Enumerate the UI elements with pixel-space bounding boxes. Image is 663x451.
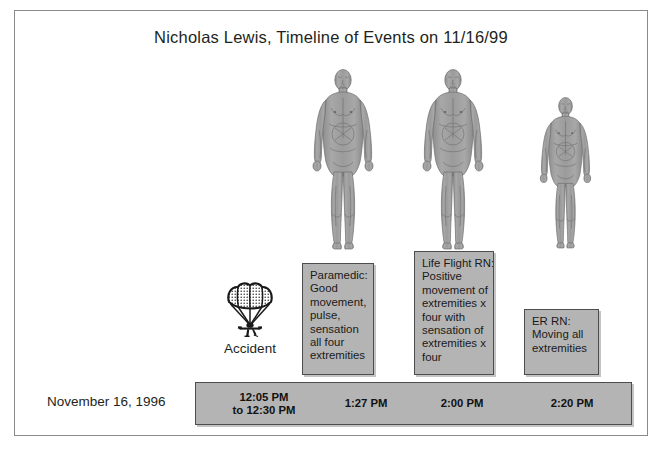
timeline-stop-paramedic: 1:27 PM [328, 383, 404, 424]
timeline-bar: 12:05 PM to 12:30 PM 1:27 PM 2:00 PM 2:2… [195, 382, 632, 425]
note-line: extremities x [422, 337, 487, 350]
parachute-icon [225, 281, 275, 337]
diagram-frame: Nicholas Lewis, Timeline of Events on 11… [14, 10, 648, 436]
note-line: four [422, 351, 487, 364]
timeline-time-line2: to 12:30 PM [233, 404, 296, 417]
note-line: extremities x [422, 297, 487, 310]
timeline-time-line1: 12:05 PM [240, 391, 289, 404]
anatomical-figure-ernurse [537, 96, 594, 249]
note-line: ER RN: [532, 315, 592, 328]
timeline-time-line1: 1:27 PM [345, 397, 388, 410]
note-line: Good [310, 282, 367, 295]
timeline-time-line1: 2:00 PM [441, 397, 484, 410]
accident-label: Accident [201, 341, 299, 356]
note-box-er-nurse: ER RN: Moving all extremities [524, 309, 599, 375]
note-line: extremities [532, 342, 592, 355]
note-box-paramedic: Paramedic: Good movement, pulse, sensati… [302, 263, 374, 375]
note-line: sensation [310, 323, 367, 336]
page-title: Nicholas Lewis, Timeline of Events on 11… [15, 28, 647, 47]
note-box-lifeflight: Life Flight RN: Positive movement of ext… [414, 251, 494, 375]
note-line: Positive [422, 270, 487, 283]
timeline-stop-lifeflight: 2:00 PM [424, 383, 500, 424]
note-line: movement, [310, 296, 367, 309]
note-line: extremities [310, 349, 367, 362]
timeline-stop-er-nurse: 2:20 PM [534, 383, 610, 424]
timeline-time-line1: 2:20 PM [551, 397, 594, 410]
accident-event-group: Accident [201, 281, 299, 356]
note-line: movement of [422, 284, 487, 297]
note-line: Paramedic: [310, 269, 367, 282]
note-line: four with [422, 311, 487, 324]
note-line: pulse, [310, 309, 367, 322]
note-line: all four [310, 336, 367, 349]
note-line: Life Flight RN: [422, 257, 487, 270]
note-line: sensation of [422, 324, 487, 337]
note-line: Moving all [532, 328, 592, 341]
anatomical-figure-paramedic [309, 68, 377, 250]
anatomical-figure-lifeflight [419, 68, 487, 250]
timeline-stop-accident: 12:05 PM to 12:30 PM [210, 383, 318, 424]
timeline-date-label: November 16, 1996 [47, 394, 166, 409]
